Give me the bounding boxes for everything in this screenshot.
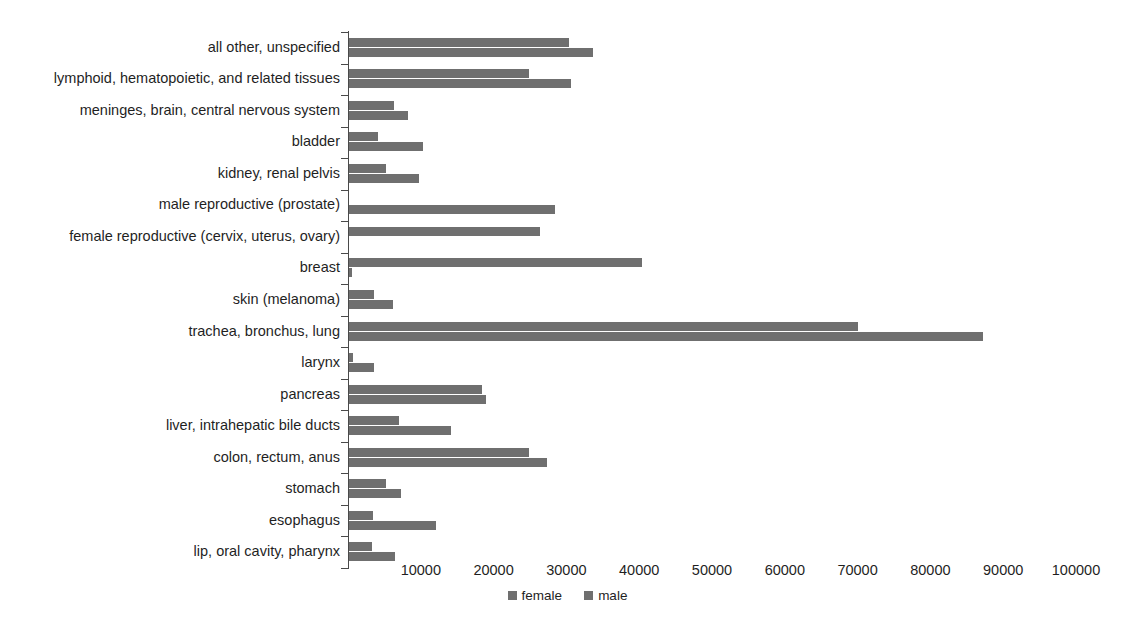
y-axis-tick (341, 379, 348, 380)
bar-male (349, 552, 395, 561)
y-axis-tick (341, 568, 348, 569)
category-label: female reproductive (cervix, uterus, ova… (0, 228, 340, 244)
bar-female (349, 132, 378, 141)
bar-male (349, 332, 983, 341)
category-label: meninges, brain, central nervous system (0, 102, 340, 118)
category-label: larynx (0, 354, 340, 370)
category-label: lymphoid, hematopoietic, and related tis… (0, 70, 340, 86)
category-label: male reproductive (prostate) (0, 196, 340, 212)
category-label: trachea, bronchus, lung (0, 323, 340, 339)
category-label: skin (melanoma) (0, 291, 340, 307)
bar-female (349, 290, 374, 299)
bar-female (349, 542, 372, 551)
bar-female (349, 448, 529, 457)
x-axis-tick-label: 70000 (837, 562, 877, 578)
bar-female (349, 353, 353, 362)
bar-female (349, 164, 386, 173)
bar-male (349, 205, 555, 214)
y-axis-tick (341, 95, 348, 96)
legend-label: female (522, 588, 563, 603)
legend-swatch-icon (584, 591, 593, 600)
y-axis-tick (341, 127, 348, 128)
bar-female (349, 258, 642, 267)
bar-male (349, 174, 419, 183)
x-axis-tick-label: 80000 (910, 562, 950, 578)
bar-female (349, 101, 394, 110)
y-axis-tick (341, 316, 348, 317)
bar-male (349, 300, 393, 309)
category-label: colon, rectum, anus (0, 449, 340, 465)
y-axis-tick (341, 347, 348, 348)
bar-male (349, 363, 374, 372)
bar-female (349, 385, 482, 394)
y-axis-tick (341, 284, 348, 285)
bar-female (349, 322, 858, 331)
y-axis-tick (341, 442, 348, 443)
bar-male (349, 395, 486, 404)
bar-male (349, 426, 451, 435)
bar-female (349, 511, 373, 520)
bar-male (349, 521, 436, 530)
category-label: all other, unspecified (0, 39, 340, 55)
x-axis-tick-label: 50000 (692, 562, 732, 578)
x-axis-tick-label: 90000 (983, 562, 1023, 578)
category-label: bladder (0, 133, 340, 149)
y-axis-tick (341, 190, 348, 191)
bar-male (349, 48, 593, 57)
category-label: stomach (0, 480, 340, 496)
bar-male (349, 458, 547, 467)
bar-chart: all other, unspecifiedlymphoid, hematopo… (0, 0, 1135, 632)
x-axis-tick-label: 40000 (619, 562, 659, 578)
bar-female (349, 38, 569, 47)
legend-item-female[interactable]: female (508, 588, 563, 603)
legend-label: male (598, 588, 627, 603)
bar-female (349, 416, 399, 425)
x-axis-tick-label: 20000 (473, 562, 513, 578)
bar-male (349, 489, 401, 498)
chart-legend: femalemale (0, 588, 1135, 603)
category-label: lip, oral cavity, pharynx (0, 543, 340, 559)
category-label: breast (0, 259, 340, 275)
y-axis-tick (341, 410, 348, 411)
y-axis-tick (341, 221, 348, 222)
bar-male (349, 79, 571, 88)
bar-female (349, 479, 386, 488)
bar-male (349, 111, 408, 120)
y-axis-tick (341, 64, 348, 65)
y-axis-tick (341, 32, 348, 33)
bar-male (349, 268, 352, 277)
category-label: kidney, renal pelvis (0, 165, 340, 181)
x-axis-tick-label: 10000 (401, 562, 441, 578)
category-label: liver, intrahepatic bile ducts (0, 417, 340, 433)
y-axis-tick (341, 536, 348, 537)
category-label: esophagus (0, 512, 340, 528)
category-label: pancreas (0, 386, 340, 402)
y-axis-tick (341, 505, 348, 506)
bar-male (349, 142, 423, 151)
x-axis-tick-label: 100000 (1052, 562, 1100, 578)
y-axis-tick (341, 253, 348, 254)
y-axis-tick (341, 473, 348, 474)
legend-swatch-icon (508, 591, 517, 600)
x-axis-tick-label: 30000 (546, 562, 586, 578)
legend-item-male[interactable]: male (584, 588, 627, 603)
bar-female (349, 227, 540, 236)
bar-female (349, 69, 529, 78)
x-axis-tick-label: 60000 (765, 562, 805, 578)
y-axis-tick (341, 158, 348, 159)
